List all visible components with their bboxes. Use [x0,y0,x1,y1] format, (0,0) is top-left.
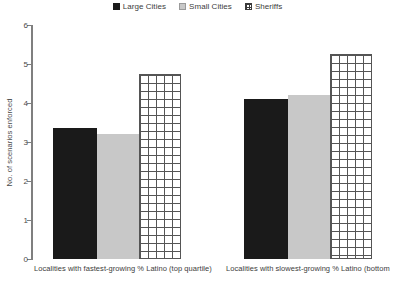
legend-label-sheriffs: Sheriffs [255,2,282,11]
legend-swatch-small-cities [179,3,186,10]
y-tick-label-1: 1 [24,215,28,224]
x-axis-category-labels: Localities with fastest-growing % Latino… [0,264,395,282]
legend-swatch-large-cities [113,3,120,10]
bar-group0-small-cities [97,134,139,259]
y-tick-label-2: 2 [24,177,28,186]
legend-item-small-cities: Small Cities [179,2,232,11]
legend-label-small-cities: Small Cities [189,2,232,11]
bar-group1-small-cities [288,95,330,259]
y-axis-title: No. of scenarios enforced [4,25,16,259]
y-tick-label-6: 6 [24,21,28,30]
bar-chart: Large Cities Small Cities Sheriffs No. o… [0,0,395,283]
y-tick-label-3: 3 [24,138,28,147]
legend-swatch-sheriffs [245,3,252,10]
legend-item-large-cities: Large Cities [113,2,166,11]
y-axis-title-text: No. of scenarios enforced [6,98,15,186]
chart-legend: Large Cities Small Cities Sheriffs [0,2,395,11]
bar-group1-sheriffs [330,54,372,259]
legend-item-sheriffs: Sheriffs [245,2,282,11]
plot-area: 6 5 4 3 2 1 0 [32,25,392,259]
bar-group1-large-cities [244,99,288,259]
bar-group0-large-cities [53,128,97,259]
y-tick-label-4: 4 [24,98,28,107]
x-axis-label-group1: Localities with slowest-growing % Latino… [226,264,390,273]
y-tick-label-5: 5 [24,60,28,69]
bar-group0-sheriffs [139,74,181,259]
y-tick-label-0: 0 [24,255,28,264]
legend-label-large-cities: Large Cities [123,2,166,11]
x-axis-label-group0: Localities with fastest-growing % Latino… [34,264,212,273]
